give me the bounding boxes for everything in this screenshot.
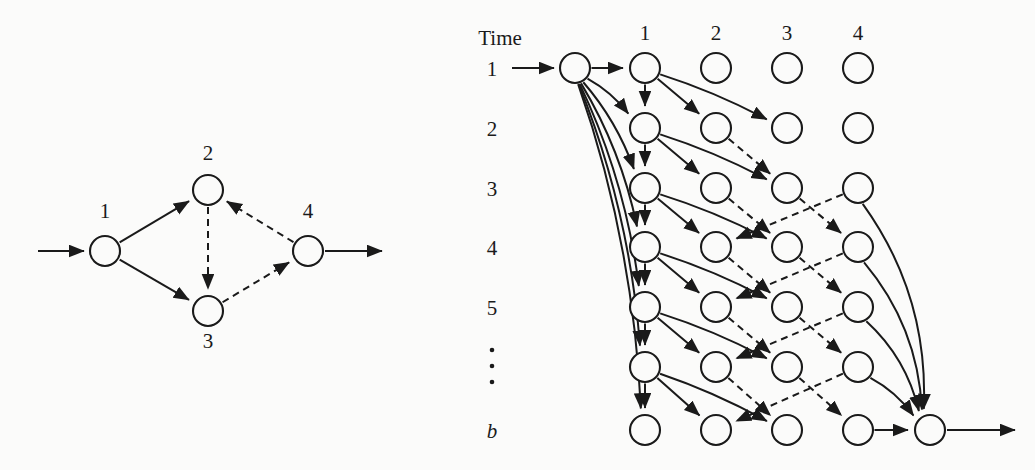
left-graph-node-label-1: 1 <box>100 199 111 223</box>
figure-canvas: 1234Time12345b1234 <box>0 0 1035 470</box>
trellis-node-c4r4[interactable] <box>843 232 873 262</box>
trellis-edge-c1r5-to-c2r6 <box>658 318 700 353</box>
trellis-node-c2r2[interactable] <box>701 113 731 143</box>
left-graph-node-3[interactable] <box>193 296 223 326</box>
trellis-node-c3r6[interactable] <box>772 352 802 382</box>
trellis-edge-c1r2-to-c2r3 <box>658 139 700 174</box>
left-graph-node-2[interactable] <box>193 175 223 205</box>
trellis-row-label-3: 3 <box>487 177 498 201</box>
right-trellis <box>512 53 1015 445</box>
trellis-node-c2r1[interactable] <box>701 53 731 83</box>
trellis-row-label-1: 1 <box>487 57 498 81</box>
trellis-node-c3r5[interactable] <box>772 292 802 322</box>
left-graph-edge-4-to-2 <box>227 201 294 242</box>
trellis-edge-c1r4-to-c2r5 <box>658 258 700 293</box>
trellis-node-c2r7[interactable] <box>701 415 731 445</box>
trellis-row-label-5: 5 <box>487 296 498 320</box>
left-graph-node-label-2: 2 <box>203 141 214 165</box>
trellis-node-c1r3[interactable] <box>630 173 660 203</box>
trellis-row-label-7: b <box>487 419 498 443</box>
trellis-terminal-node[interactable] <box>915 415 945 445</box>
trellis-node-c1r7[interactable] <box>630 415 660 445</box>
trellis-column-label-3: 3 <box>782 21 793 45</box>
trellis-node-c3r1[interactable] <box>772 53 802 83</box>
trellis-edge-c4r6-to-terminal <box>870 378 913 416</box>
trellis-edge-c2r2-to-c3r3 <box>729 139 771 174</box>
trellis-edge-c4r5-to-terminal <box>866 321 919 411</box>
trellis-node-c4r1[interactable] <box>843 53 873 83</box>
trellis-column-label-1: 1 <box>640 21 651 45</box>
trellis-node-c3r3[interactable] <box>772 173 802 203</box>
trellis-column-label-4: 4 <box>853 21 864 45</box>
left-graph-node-4[interactable] <box>293 236 323 266</box>
trellis-row-label-dots <box>490 348 495 353</box>
trellis-node-c3r4[interactable] <box>772 232 802 262</box>
trellis-row-label-dots <box>490 364 495 369</box>
trellis-edge-c1r6-to-c2r7 <box>657 378 699 415</box>
trellis-column-label-2: 2 <box>711 21 722 45</box>
trellis-node-c1r5[interactable] <box>630 292 660 322</box>
trellis-row-label-2: 2 <box>487 117 498 141</box>
figure-svg: 1234Time12345b1234 <box>0 0 1035 470</box>
trellis-time-label: Time <box>478 26 522 50</box>
trellis-node-c4r3[interactable] <box>843 173 873 203</box>
trellis-node-c2r4[interactable] <box>701 232 731 262</box>
left-graph-node-label-3: 3 <box>203 329 214 353</box>
trellis-node-c4r5[interactable] <box>843 292 873 322</box>
trellis-edge-c4r4-to-terminal <box>864 262 922 409</box>
trellis-node-c3r2[interactable] <box>772 113 802 143</box>
left-graph <box>38 175 382 326</box>
trellis-edge-c1r3-to-c2r4 <box>658 199 699 233</box>
trellis-node-c1r1[interactable] <box>630 53 660 83</box>
trellis-node-c4r2[interactable] <box>843 113 873 143</box>
left-graph-edge-1-to-3 <box>120 260 189 300</box>
trellis-row-label-4: 4 <box>487 236 498 260</box>
trellis-edge-c2r6-to-c3r7 <box>728 378 770 415</box>
trellis-node-c3r7[interactable] <box>772 415 802 445</box>
trellis-node-c1r2[interactable] <box>630 113 660 143</box>
trellis-edge-c1r1-to-c2r2 <box>658 79 700 114</box>
left-graph-node-label-4: 4 <box>303 199 314 223</box>
trellis-node-c2r5[interactable] <box>701 292 731 322</box>
trellis-node-c2r6[interactable] <box>701 352 731 382</box>
trellis-node-c1r4[interactable] <box>630 232 660 262</box>
trellis-row-label-dots <box>490 380 495 385</box>
trellis-node-c4r7[interactable] <box>843 415 873 445</box>
left-graph-edge-1-to-2 <box>120 201 189 242</box>
left-graph-edge-3-to-4 <box>223 262 290 302</box>
left-graph-node-1[interactable] <box>90 236 120 266</box>
trellis-start-node[interactable] <box>560 53 590 83</box>
trellis-node-c4r6[interactable] <box>843 352 873 382</box>
trellis-node-c2r3[interactable] <box>701 173 731 203</box>
trellis-node-c1r6[interactable] <box>630 352 660 382</box>
